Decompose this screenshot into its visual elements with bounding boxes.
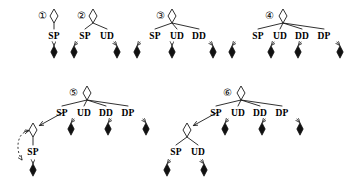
tree-5-leaf-2 bbox=[105, 123, 111, 135]
tree-5-label-dp: DP bbox=[121, 108, 134, 118]
leaf-diamond-shape bbox=[259, 123, 265, 135]
tree-2-leaf-arrow-0 bbox=[74, 42, 77, 45]
tree-4-leaf-arrow-0 bbox=[232, 42, 235, 45]
tree-3-label-ud: UD bbox=[170, 31, 184, 41]
tree-6-sub-leaf-arrow-1 bbox=[201, 160, 204, 163]
tree-5-leaf-1 bbox=[68, 123, 74, 135]
leaf-diamond-shape bbox=[30, 164, 36, 176]
leaf-diamond-shape bbox=[295, 46, 301, 58]
leaf-tick-line bbox=[225, 119, 228, 122]
tree-5-sub-label-sp: SP bbox=[27, 147, 39, 157]
tree-4-edge-0 bbox=[258, 23, 283, 29]
tree-4-label-dp: DP bbox=[317, 31, 330, 41]
tree-number-6: ⑥ bbox=[223, 88, 232, 98]
tree-3-leaf-arrow-2 bbox=[210, 42, 213, 45]
tree-3-label-sp: SP bbox=[149, 31, 161, 41]
tree-4-leaf-2 bbox=[295, 46, 301, 58]
leaf-diamond-shape bbox=[71, 46, 77, 58]
leaf-diamond-shape bbox=[143, 123, 149, 135]
tree-4-leaf-arrow-1 bbox=[271, 42, 274, 45]
leaf-diamond-shape bbox=[68, 123, 74, 135]
tree-5-label-sp: SP bbox=[56, 108, 68, 118]
tree-6-sub-edge-0 bbox=[176, 137, 187, 145]
tree-5-root-node bbox=[83, 86, 91, 100]
tree-4-leaf-3 bbox=[337, 46, 343, 58]
leaf-diamond-shape bbox=[134, 46, 140, 58]
tree-6-label-dp: DP bbox=[275, 108, 288, 118]
tree-4-label-dd: DD bbox=[295, 31, 309, 41]
leaf-tick-line bbox=[143, 119, 146, 122]
diagram-canvas: ①SP②SPUD③SPUDDD④SPUDDDDP⑤SPUDDDDPSP⑥SPUD… bbox=[0, 0, 355, 193]
tree-5-leaf-arrow-3 bbox=[143, 119, 146, 122]
leaf-tick-line bbox=[114, 42, 117, 45]
tree-2-edge-0 bbox=[85, 23, 93, 29]
tree-6-edge-3 bbox=[241, 100, 282, 106]
leaf-diamond-shape bbox=[201, 164, 207, 176]
leaf-tick-line bbox=[262, 119, 265, 122]
tree-4-root-node bbox=[279, 9, 287, 23]
tree-number-1: ① bbox=[38, 11, 47, 21]
tree-6-leaf-arrow-1 bbox=[225, 119, 228, 122]
tree-6-leaf-2 bbox=[259, 123, 265, 135]
leaf-tick-line bbox=[232, 42, 235, 45]
tree-5-label-ud: UD bbox=[77, 108, 91, 118]
leaf-diamond-shape bbox=[297, 123, 303, 135]
leaf-diamond-shape bbox=[114, 46, 120, 58]
tree-6-label-dd: DD bbox=[253, 108, 267, 118]
tree-6-sub-label-ud: UD bbox=[191, 147, 205, 157]
tree-2-label-ud: UD bbox=[100, 31, 114, 41]
tree-4-edge-2 bbox=[283, 23, 302, 29]
leaf-diamond-shape bbox=[105, 123, 111, 135]
leaf-diamond-shape bbox=[210, 46, 216, 58]
leaf-tick-line bbox=[271, 42, 274, 45]
tree-6-leaf-3 bbox=[297, 123, 303, 135]
leaf-tick-line bbox=[337, 42, 340, 45]
tree-number-4: ④ bbox=[265, 11, 274, 21]
tree-2-leaf-1 bbox=[114, 46, 120, 58]
tree-6-sub-leaf-arrow-0 bbox=[167, 160, 170, 163]
leaf-diamond-shape bbox=[268, 46, 274, 58]
tree-6-root-node bbox=[237, 86, 245, 100]
tree-edges-group bbox=[18, 23, 324, 160]
tree-5-sub-root-node bbox=[29, 123, 37, 137]
tree-3-leaf-1 bbox=[169, 46, 175, 58]
tree-5-label-dd: DD bbox=[99, 108, 113, 118]
leaf-tick-line bbox=[297, 119, 300, 122]
tree-3-leaf-arrow-0 bbox=[137, 42, 140, 45]
tree-3-leaf-2 bbox=[210, 46, 216, 58]
tree-6-leaf-arrow-2 bbox=[262, 119, 265, 122]
tree-number-2: ② bbox=[77, 11, 86, 21]
tree-6-sub-edge-1 bbox=[187, 137, 198, 145]
leaf-diamond-shape bbox=[337, 46, 343, 58]
tree-6-sub-leaf-0 bbox=[164, 164, 170, 176]
tree-3-root-node bbox=[168, 9, 176, 23]
leaf-tick-line bbox=[201, 160, 204, 163]
leaf-tick-line bbox=[74, 42, 77, 45]
tree-1-label-sp: SP bbox=[48, 31, 60, 41]
tree-2-leaf-0 bbox=[71, 46, 77, 58]
leaf-diamond-shape bbox=[51, 46, 57, 58]
tree-5-edge-0 bbox=[62, 100, 87, 106]
tree-1-leaf-0 bbox=[51, 46, 57, 58]
tree-5-edge-3 bbox=[87, 100, 128, 106]
tree-3-leaf-0 bbox=[134, 46, 140, 58]
tree-6-edge-0 bbox=[216, 100, 241, 106]
tree-3-label-dd: DD bbox=[192, 31, 206, 41]
leaf-tick-line bbox=[210, 42, 213, 45]
tree-6-sub-leaf-1 bbox=[201, 164, 207, 176]
tree-6-sub-root-node bbox=[183, 123, 191, 137]
tree-1-root-node bbox=[50, 9, 58, 23]
tree-5-leaf-arrow-2 bbox=[108, 119, 111, 122]
tree-number-3: ③ bbox=[156, 11, 165, 21]
tree-4-edge-3 bbox=[283, 23, 324, 29]
leaf-diamond-shape bbox=[169, 46, 175, 58]
tree-4-leaf-0 bbox=[229, 46, 235, 58]
tree-6-edge-2 bbox=[241, 100, 260, 106]
tree-4-label-sp: SP bbox=[252, 31, 264, 41]
tree-4-leaf-arrow-3 bbox=[337, 42, 340, 45]
leaf-tick-line bbox=[137, 42, 140, 45]
tree-5-leaf-3 bbox=[143, 123, 149, 135]
tree-5-sub-leaf-0 bbox=[30, 164, 36, 176]
tree-2-edge-1 bbox=[93, 23, 107, 29]
tree-6-leaf-arrow-3 bbox=[297, 119, 300, 122]
